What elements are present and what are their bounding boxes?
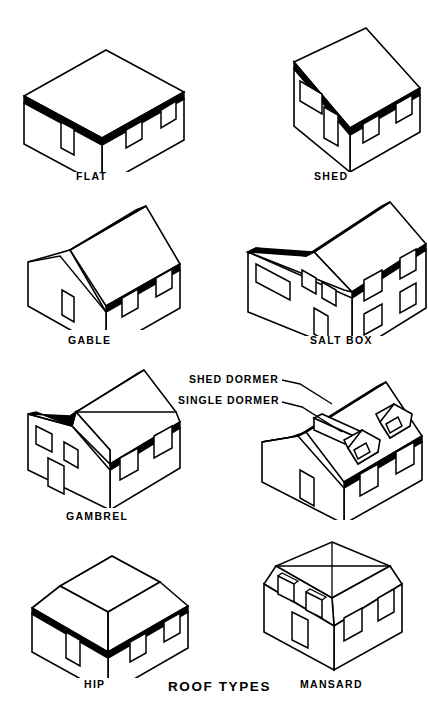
roof-types-diagram-sheet: FLAT SHED [0, 0, 428, 715]
hip-roof-house-icon [20, 548, 200, 678]
salt-box-roof-house-icon [240, 196, 428, 336]
mansard-roof-house-icon [256, 540, 406, 672]
page-title: ROOF TYPES [168, 679, 271, 694]
caption-shed: SHED [314, 170, 348, 182]
flat-roof-house-icon [14, 44, 194, 172]
caption-mansard: MANSARD [300, 678, 363, 690]
caption-hip: HIP [84, 678, 105, 690]
dormer-leader-lines [280, 374, 390, 434]
caption-flat: FLAT [76, 170, 107, 182]
shed-roof-house-icon [248, 24, 428, 172]
annotation-single-dormer: SINGLE DORMER [178, 394, 280, 406]
caption-saltbox: SALT BOX [310, 334, 373, 346]
annotation-shed-dormer: SHED DORMER [189, 373, 279, 385]
caption-gable: GABLE [68, 334, 111, 346]
gable-roof-house-icon [14, 198, 194, 330]
gambrel-roof-house-icon [14, 368, 194, 508]
caption-gambrel: GAMBREL [66, 510, 128, 522]
